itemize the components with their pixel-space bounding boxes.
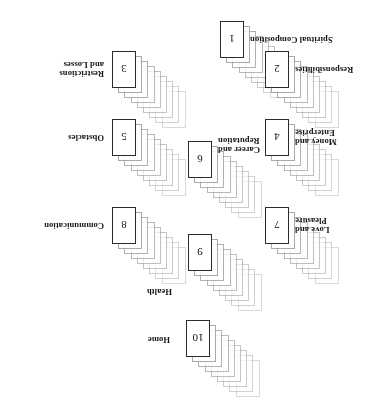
stack-label: Obstacles — [68, 132, 104, 141]
stack-front-card[interactable]: 9 — [188, 234, 212, 271]
stack-front-card[interactable]: 6 — [188, 141, 212, 178]
stack-label: Home — [148, 334, 170, 343]
stack-front-card[interactable]: 1 — [220, 21, 244, 58]
stack-front-card[interactable]: 10 — [186, 320, 210, 357]
stack-front-card[interactable]: 2 — [265, 51, 289, 88]
stack-label: Money and Enterprise — [295, 128, 337, 146]
stack-front-card[interactable]: 8 — [112, 207, 136, 244]
stack-label: Career and Reputation — [218, 136, 260, 154]
card-number: 7 — [266, 220, 288, 231]
stack-label: Health — [147, 286, 172, 295]
card-number: 4 — [266, 132, 288, 143]
card-number: 1 — [221, 34, 243, 45]
stack-front-card[interactable]: 3 — [112, 51, 136, 88]
stack-front-card[interactable]: 4 — [265, 119, 289, 156]
stack-label: Spiritual Composition — [250, 34, 333, 43]
stack-label: Responsibilities — [295, 64, 353, 73]
card-number: 6 — [189, 154, 211, 165]
stack-front-card[interactable]: 7 — [265, 207, 289, 244]
stack-front-card[interactable]: 5 — [112, 119, 136, 156]
card-number: 9 — [189, 247, 211, 258]
stack-label: Communication — [44, 220, 104, 229]
card-number: 8 — [113, 220, 135, 231]
card-number: 5 — [113, 132, 135, 143]
card-stack-diagram: 1Spiritual Composition2Responsibilities3… — [0, 0, 392, 415]
card-number: 10 — [187, 333, 209, 344]
stack-label: Love and Pleasure — [295, 216, 330, 234]
stack-label: Restrictions and Losses — [59, 60, 104, 78]
card-number: 2 — [266, 64, 288, 75]
card-number: 3 — [113, 64, 135, 75]
